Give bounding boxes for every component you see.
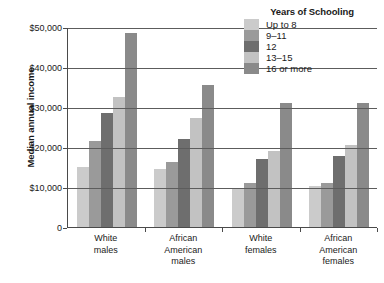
bar [113, 97, 125, 227]
legend-swatch [244, 41, 259, 52]
bar [178, 139, 190, 227]
bar [101, 113, 113, 227]
y-tick-label: $50,000 [6, 24, 62, 33]
bar [190, 118, 202, 227]
x-category-label: African American males [145, 233, 223, 268]
bar [154, 169, 166, 227]
gridline [68, 188, 377, 189]
legend-item-label: Up to 8 [266, 19, 380, 30]
bar [244, 183, 256, 227]
y-tick-label: $30,000 [6, 104, 62, 113]
y-tick-mark [63, 148, 67, 149]
bar [321, 183, 333, 227]
x-tick-mark [145, 228, 146, 232]
legend-title: Years of Schooling [244, 6, 380, 17]
legend-swatch [244, 19, 259, 30]
y-tick-label: $40,000 [6, 64, 62, 73]
bar [166, 162, 178, 227]
bar [125, 33, 137, 227]
gridline [68, 108, 377, 109]
legend-swatch [244, 30, 259, 41]
bar [309, 186, 321, 227]
legend-items: Up to 89–111213–1516 or more [244, 19, 380, 74]
y-tick-mark [63, 28, 67, 29]
bar [89, 141, 101, 227]
y-tick-label: $20,000 [6, 144, 62, 153]
bar [232, 189, 244, 227]
bar [256, 159, 268, 227]
legend-item-label: 16 or more [266, 63, 380, 74]
x-tick-mark [300, 228, 301, 232]
bar-group [154, 28, 214, 227]
bar [77, 167, 89, 227]
y-tick-label: 0 [6, 224, 62, 233]
gridline [68, 148, 377, 149]
bar [268, 151, 280, 227]
legend-swatch [244, 52, 259, 63]
bar [357, 103, 369, 227]
bar [280, 103, 292, 227]
bar [333, 156, 345, 227]
legend-item-label: 9–11 [266, 30, 380, 41]
y-tick-mark [63, 188, 67, 189]
legend-item-label: 12 [266, 41, 380, 52]
y-tick-label: $10,000 [6, 184, 62, 193]
y-tick-mark [63, 68, 67, 69]
y-tick-mark [63, 228, 67, 229]
bar [202, 85, 214, 227]
legend: Years of Schooling Up to 89–111213–1516 … [244, 6, 380, 74]
legend-swatch [244, 63, 259, 74]
y-tick-mark [63, 108, 67, 109]
bar [345, 145, 357, 227]
legend-item-label: 13–15 [266, 52, 380, 63]
x-category-label: White males [67, 233, 145, 256]
x-tick-mark [377, 228, 378, 232]
x-tick-mark [222, 228, 223, 232]
bar-group [77, 28, 137, 227]
x-category-label: African American females [300, 233, 378, 268]
bar-chart: Median annual income 0$10,000$20,000$30,… [0, 0, 384, 283]
x-category-label: White females [222, 233, 300, 256]
